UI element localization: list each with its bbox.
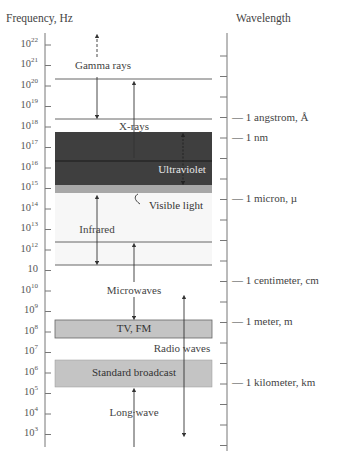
freq-tick: 1016 xyxy=(8,161,38,172)
freq-tick: 1010 xyxy=(8,284,38,295)
freq-tick: 1013 xyxy=(8,222,38,233)
microwaves-label: Microwaves xyxy=(107,284,161,296)
spectrum-graphics xyxy=(0,0,337,463)
freq-tick: 1020 xyxy=(8,79,38,90)
freq-tick: 109 xyxy=(8,304,38,315)
freq-tick: 1015 xyxy=(8,181,38,192)
wavelength-angstrom-label: — 1 angstrom, Å xyxy=(232,111,308,123)
tv-fm-label: TV, FM xyxy=(117,322,152,334)
infrared-label: Infrared xyxy=(79,223,114,235)
freq-tick: 104 xyxy=(8,407,38,418)
freq-tick: 1018 xyxy=(8,120,38,131)
long-wave-label: Long wave xyxy=(109,406,158,418)
freq-tick: 107 xyxy=(8,345,38,356)
ultraviolet-label: Ultraviolet xyxy=(158,163,206,175)
freq-tick: 105 xyxy=(8,386,38,397)
xrays-label: X-rays xyxy=(119,120,149,132)
wavelength-kilometer-label: — 1 kilometer, km xyxy=(232,376,315,388)
frequency-axis xyxy=(45,33,51,447)
freq-tick: 1022 xyxy=(8,38,38,49)
freq-tick: 1012 xyxy=(8,243,38,254)
visible-light-band xyxy=(55,185,212,193)
freq-tick: 108 xyxy=(8,325,38,336)
freq-tick: 1014 xyxy=(8,202,38,213)
visible-light-label: Visible light xyxy=(149,199,203,211)
wavelength-micron-label: — 1 micron, µ xyxy=(232,192,297,204)
wavelength-axis xyxy=(220,33,227,451)
ultraviolet-band xyxy=(55,132,212,185)
standard-broadcast-label: Standard broadcast xyxy=(92,366,176,378)
freq-tick: 1019 xyxy=(8,99,38,110)
wavelength-meter-label: — 1 meter, m xyxy=(232,315,293,327)
freq-tick: 10 xyxy=(8,263,38,274)
freq-tick: 103 xyxy=(8,427,38,438)
freq-tick: 1017 xyxy=(8,140,38,151)
freq-tick: 106 xyxy=(8,366,38,377)
gamma-rays-label: Gamma rays xyxy=(75,59,131,71)
radio-waves-label: Radio waves xyxy=(154,342,211,354)
freq-tick: 1021 xyxy=(8,58,38,69)
wavelength-centimeter-label: — 1 centimeter, cm xyxy=(232,274,319,286)
wavelength-nm-label: — 1 nm xyxy=(232,131,268,143)
